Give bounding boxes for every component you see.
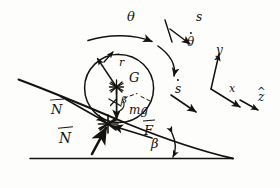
label-s-dot: s xyxy=(175,83,181,95)
label-axis-y: y xyxy=(216,44,223,56)
diagram-svg xyxy=(0,0,280,188)
label-theta: θ xyxy=(127,10,135,23)
diagram-canvas: θ θ s s r G mg β F N N β y x ^z xyxy=(0,0,280,188)
label-normal-force: N xyxy=(59,131,71,145)
normal-reaction-vector xyxy=(60,96,104,121)
label-theta-dot: θ xyxy=(187,36,194,48)
incline-line xyxy=(19,80,234,159)
label-normal-reaction: N xyxy=(51,103,62,116)
axis-z-arrow xyxy=(240,100,258,110)
axis-x-arrow xyxy=(211,89,240,107)
label-beta-at-center: β xyxy=(121,95,127,105)
label-axis-x: x xyxy=(229,83,235,94)
label-G: G xyxy=(129,71,139,84)
theta-arc-arrow xyxy=(88,36,152,42)
theta-dot-arc-arrow xyxy=(158,46,174,76)
label-r: r xyxy=(119,57,124,68)
label-axis-z: ^z xyxy=(258,91,264,103)
weight-tick xyxy=(109,99,121,106)
beta-angle-arc xyxy=(172,133,175,157)
label-mg: mg xyxy=(129,104,148,116)
axis-y-arrow xyxy=(211,54,219,89)
label-beta-incline: β xyxy=(151,137,159,150)
radius-arrow xyxy=(98,59,117,88)
normal-force-vector xyxy=(92,128,106,154)
s-dot-arrow xyxy=(171,95,196,112)
label-s: s xyxy=(196,11,202,23)
